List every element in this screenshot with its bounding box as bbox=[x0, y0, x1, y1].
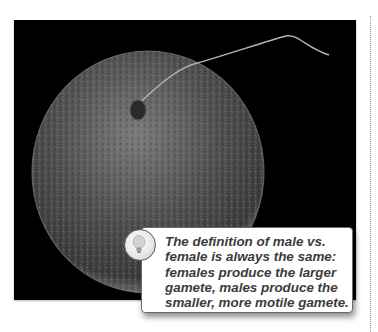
callout-line: The definition of male vs. bbox=[165, 234, 351, 249]
callout-line: smaller, more motile gamete. bbox=[165, 295, 351, 310]
callout-line: female is always the same: bbox=[165, 249, 351, 264]
lightbulb-icon bbox=[124, 229, 156, 261]
callout-box: The definition of male vs. female is alw… bbox=[141, 227, 353, 313]
callout-text: The definition of male vs. female is alw… bbox=[165, 234, 351, 310]
callout-line: gamete, males produce the bbox=[165, 280, 351, 295]
margin-divider bbox=[370, 16, 371, 332]
callout-line: females produce the larger bbox=[165, 265, 351, 280]
